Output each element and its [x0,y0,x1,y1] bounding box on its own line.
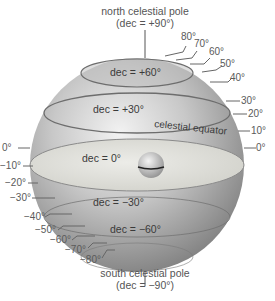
dec-plus30-label: dec = +30° [93,104,144,115]
north-pole-label: north celestial pole [65,6,225,17]
tick-minus10: −10° [0,160,21,171]
tick-20: 20° [248,108,263,119]
celestial-sphere-diagram: north celestial pole (dec = +90°) dec = … [0,0,275,301]
dec-zero-label: dec = 0° [82,153,121,164]
tick-0-right: 0° [256,142,266,153]
tick-70: 70° [194,38,209,49]
tick-50: 50° [220,58,235,69]
dec-plus60-label: dec = +60° [110,67,161,78]
tick-60: 60° [209,46,224,57]
north-pole-dec-label: (dec = +90°) [65,18,225,29]
dec-minus30-label: dec = −30° [93,197,144,208]
tick-minus80: −80° [80,254,101,265]
celestial-equator-plane [30,139,244,191]
tick-40: 40° [230,72,245,83]
south-pole-dec-label: (dec = −90°) [65,280,225,291]
tick-30: 30° [241,95,256,106]
sphere-graphic [0,0,275,301]
tick-10: 10° [251,125,266,136]
earth-icon [138,152,164,178]
tick-minus30: −30° [10,192,31,203]
south-pole-label: south celestial pole [65,268,225,279]
tick-minus40: −40° [24,211,45,222]
tick-minus20: −20° [5,177,26,188]
dec-minus60-label: dec = −60° [110,224,161,235]
tick-0-left: 0° [2,142,12,153]
